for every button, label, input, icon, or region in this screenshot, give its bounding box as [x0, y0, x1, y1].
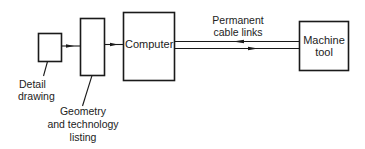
- leader-detail-drawing: [44, 62, 48, 77]
- detail-drawing-label-line1: Detail: [19, 78, 46, 90]
- machine-tool-label-line1: Machine: [303, 34, 345, 46]
- arrow-detail-to-listing: [62, 44, 81, 47]
- geometry-listing-label-line2: and technology: [47, 118, 119, 130]
- geometry-listing-label-line1: Geometry: [60, 105, 107, 117]
- arrowhead-right-icon: [110, 43, 118, 46]
- arrow-listing-to-computer: [105, 43, 124, 46]
- geometry-listing-box: [81, 19, 105, 76]
- arrowhead-left-icon: [233, 40, 244, 43]
- geometry-listing-label-line3: listing: [70, 131, 97, 143]
- cable-links-label-line2: cable links: [213, 26, 262, 38]
- arrowhead-right-icon: [248, 47, 258, 50]
- cnc-data-flow-diagram: Computer Permanent cable links Machine t…: [0, 0, 365, 149]
- cable-links-label-line1: Permanent: [212, 14, 263, 26]
- cable-links: [175, 40, 300, 50]
- detail-drawing-box: [39, 34, 62, 62]
- computer-label: Computer: [125, 38, 174, 50]
- machine-tool-label-line2: tool: [315, 46, 333, 58]
- leader-geometry-listing: [83, 76, 93, 107]
- arrowhead-right-icon: [66, 44, 74, 47]
- detail-drawing-label-line2: drawing: [18, 90, 55, 102]
